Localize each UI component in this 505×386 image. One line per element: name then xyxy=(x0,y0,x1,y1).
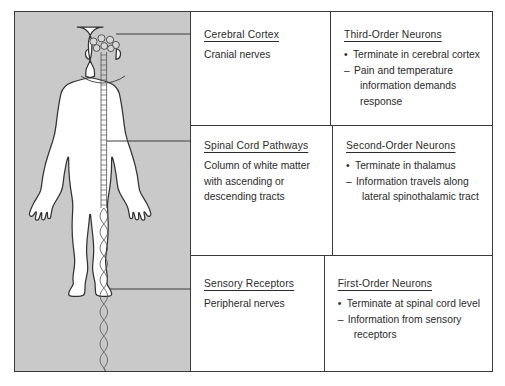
bullet-text-first: Pain and temperature xyxy=(354,65,453,76)
cell-neuron-row2: Second-Order Neurons • Terminate in thal… xyxy=(333,126,492,255)
human-body-svg: .bodyline { fill:#ffffff; stroke:#333333… xyxy=(15,12,191,371)
structure-detail: Column of white matter xyxy=(204,158,320,174)
bullet-text-cont: response xyxy=(354,94,456,110)
neuron-bullet: • Terminate in cerebral cortex xyxy=(344,47,480,63)
neuron-title-third-order: Third-Order Neurons xyxy=(344,29,480,40)
structure-title-cerebral-cortex: Cerebral Cortex xyxy=(204,29,318,40)
sensory-pathway-figure: .bodyline { fill:#ffffff; stroke:#333333… xyxy=(0,0,505,386)
bullet-text-cont: receptors xyxy=(348,327,462,343)
neuron-bullet: • Terminate in thalamus xyxy=(346,158,480,174)
neuron-title-first-order: First-Order Neurons xyxy=(338,278,480,289)
bullet-text: Information travels along lateral spinot… xyxy=(356,174,479,205)
neuron-title-second-order: Second-Order Neurons xyxy=(346,140,480,151)
bullet-mark: – xyxy=(346,174,356,205)
bullet-mark: • xyxy=(338,296,347,312)
bullet-mark: – xyxy=(344,63,354,110)
bullet-text: Terminate at spinal cord level xyxy=(347,296,480,312)
table-row: Sensory Receptors Peripheral nerves Firs… xyxy=(191,256,492,371)
bullet-text-first: Information from sensory xyxy=(348,314,462,325)
cell-neuron-row3: First-Order Neurons • Terminate at spina… xyxy=(325,256,492,371)
structure-title-sensory-receptors: Sensory Receptors xyxy=(204,278,312,289)
neuron-bullet: – Information from sensory receptors xyxy=(338,312,480,343)
neuron-bullet: • Terminate at spinal cord level xyxy=(338,296,480,312)
cell-structure-row1: Cerebral Cortex Cranial nerves xyxy=(191,12,331,125)
table-row: Cerebral Cortex Cranial nerves Third-Ord… xyxy=(191,12,492,125)
bullet-mark: • xyxy=(346,158,355,174)
bullet-text: Terminate in cerebral cortex xyxy=(353,47,480,63)
structure-detail: with ascending or xyxy=(204,174,320,190)
cell-structure-row2: Spinal Cord Pathways Column of white mat… xyxy=(191,126,333,255)
body-outline xyxy=(29,27,151,296)
bullet-text: Information from sensory receptors xyxy=(348,312,462,343)
body-illustration-panel: .bodyline { fill:#ffffff; stroke:#333333… xyxy=(15,12,191,371)
bullet-text: Terminate in thalamus xyxy=(355,158,456,174)
bullet-text-cont: lateral spinothalamic tract xyxy=(356,189,479,205)
bullet-text: Pain and temperature information demands… xyxy=(354,63,456,110)
neuron-bullet: – Pain and temperature information deman… xyxy=(344,63,480,110)
bullet-mark: – xyxy=(338,312,348,343)
structure-detail: Peripheral nerves xyxy=(204,296,312,312)
diagram-frame: .bodyline { fill:#ffffff; stroke:#333333… xyxy=(14,11,493,372)
bullet-text-first: Information travels along xyxy=(356,176,469,187)
table-row: Spinal Cord Pathways Column of white mat… xyxy=(191,125,492,256)
structure-title-spinal-cord-pathways: Spinal Cord Pathways xyxy=(204,140,320,151)
neuron-bullet: – Information travels along lateral spin… xyxy=(346,174,480,205)
structure-detail: Cranial nerves xyxy=(204,47,318,63)
bullet-text-cont: information demands xyxy=(354,78,456,94)
cell-structure-row3: Sensory Receptors Peripheral nerves xyxy=(191,256,325,371)
cell-neuron-row1: Third-Order Neurons • Terminate in cereb… xyxy=(331,12,492,125)
bullet-mark: • xyxy=(344,47,353,63)
brain-nuclei-cluster xyxy=(90,35,120,52)
neuron-order-table: Cerebral Cortex Cranial nerves Third-Ord… xyxy=(191,12,492,371)
structure-detail: descending tracts xyxy=(204,189,320,205)
